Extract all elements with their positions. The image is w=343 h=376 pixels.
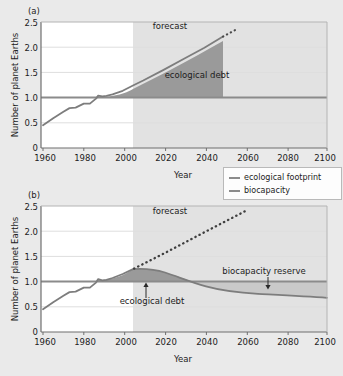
svg-text:2.5: 2.5 (24, 18, 38, 28)
svg-text:2080: 2080 (277, 337, 299, 347)
xlabel-a: Year (173, 170, 193, 180)
svg-text:2040: 2040 (196, 153, 218, 163)
svg-text:2060: 2060 (237, 337, 259, 347)
legend-item-biocapacity: biocapacity (229, 184, 337, 197)
svg-text:1980: 1980 (74, 153, 96, 163)
svg-text:2100: 2100 (314, 337, 336, 347)
legend-label-biocapacity: biocapacity (244, 184, 290, 197)
svg-text:2060: 2060 (237, 153, 259, 163)
svg-text:1.0: 1.0 (24, 93, 38, 103)
svg-text:0.5: 0.5 (24, 302, 38, 312)
svg-text:0: 0 (33, 327, 38, 337)
svg-text:0.5: 0.5 (24, 118, 38, 128)
svg-text:1.5: 1.5 (24, 68, 38, 78)
svg-text:2020: 2020 (155, 153, 177, 163)
ylabel-b: Number of planet Earths (10, 216, 20, 321)
legend: ecological footprint biocapacity (223, 167, 342, 200)
svg-text:1980: 1980 (74, 337, 96, 347)
svg-text:2.0: 2.0 (24, 227, 38, 237)
annotation-debt-a: ecological debt (165, 70, 230, 80)
svg-text:1960: 1960 (34, 337, 56, 347)
xlabel-b: Year (173, 354, 193, 364)
legend-swatch-biocapacity-icon (229, 190, 240, 192)
panel-b-plot: 2.5 2.0 1.5 1.0 0.5 0 1960 1980 2000 202… (0, 186, 343, 376)
svg-text:1.5: 1.5 (24, 252, 38, 262)
figure: (a) (0, 0, 343, 376)
svg-text:2040: 2040 (196, 337, 218, 347)
panel-a-plot: 2.5 2.0 1.5 1.0 0.5 0 1960 1980 2000 202… (0, 0, 343, 190)
xtick-labels-a: 1960 1980 2000 2020 2040 2060 2080 2100 (34, 153, 336, 163)
ytick-labels-b: 2.5 2.0 1.5 1.0 0.5 0 (24, 202, 38, 338)
svg-text:2100: 2100 (314, 153, 336, 163)
legend-swatch-footprint-icon (229, 177, 240, 179)
chart-panel-b: (b) (0, 186, 343, 376)
svg-text:2000: 2000 (115, 337, 137, 347)
svg-text:1960: 1960 (34, 153, 56, 163)
annotation-debt-b: ecological debt (120, 296, 185, 306)
svg-text:2000: 2000 (115, 153, 137, 163)
svg-text:2020: 2020 (155, 337, 177, 347)
xtick-labels-b: 1960 1980 2000 2020 2040 2060 2080 2100 (34, 337, 336, 347)
svg-text:1.0: 1.0 (24, 277, 38, 287)
ylabel-a: Number of planet Earths (10, 32, 20, 137)
ytick-labels-a: 2.5 2.0 1.5 1.0 0.5 0 (24, 18, 38, 154)
svg-text:0: 0 (33, 143, 38, 153)
svg-text:2.0: 2.0 (24, 43, 38, 53)
chart-panel-a: (a) (0, 0, 343, 186)
svg-text:2080: 2080 (277, 153, 299, 163)
legend-label-footprint: ecological footprint (244, 171, 321, 184)
svg-text:2.5: 2.5 (24, 202, 38, 212)
annotation-reserve-b: biocapacity reserve (222, 266, 306, 276)
annotation-forecast-b: forecast (153, 206, 188, 216)
legend-item-footprint: ecological footprint (229, 171, 337, 184)
annotation-forecast-a: forecast (153, 21, 188, 31)
